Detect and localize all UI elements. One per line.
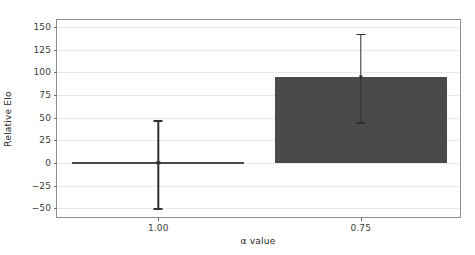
plot-area: 1501251007550250−25−501.000.75 [56,19,461,218]
y-tick-mark [54,27,58,28]
y-tick-label: 0 [45,158,51,168]
y-gridline [57,50,460,51]
y-axis-title: Relative Elo [3,91,13,146]
y-tick-mark [54,208,58,209]
y-tick-mark [54,163,58,164]
x-tick-label: 0.75 [351,223,371,233]
x-tick-mark [158,217,159,221]
y-tick-mark [54,72,58,73]
y-tick-label: −50 [32,203,51,213]
y-tick-mark [54,95,58,96]
y-tick-mark [54,140,58,141]
y-tick-label: 125 [34,45,51,55]
error-bar-cap [154,208,163,210]
y-gridline [57,186,460,187]
y-gridline [57,72,460,73]
data-point-marker [359,75,362,78]
y-tick-label: 50 [39,113,51,123]
x-tick-label: 1.00 [148,223,168,233]
y-tick-mark [54,186,58,187]
chart-figure: Relative Elo α value 1501251007550250−25… [0,0,475,255]
y-gridline [57,208,460,209]
y-tick-label: −25 [32,181,51,191]
data-point-marker [157,161,160,164]
error-bar-cap [356,34,365,36]
y-tick-mark [54,50,58,51]
x-tick-mark [361,217,362,221]
y-tick-label: 150 [34,22,51,32]
x-axis-title: α value [241,236,276,246]
y-tick-label: 75 [39,90,51,100]
error-bar-cap [356,122,365,124]
error-bar-cap [154,120,163,122]
y-tick-mark [54,118,58,119]
y-gridline [57,27,460,28]
y-tick-label: 100 [34,67,51,77]
y-tick-label: 25 [39,135,51,145]
